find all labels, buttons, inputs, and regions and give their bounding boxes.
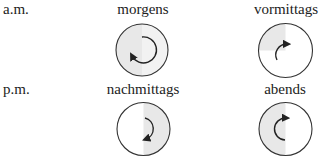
clock-nachmittags-icon	[116, 101, 171, 157]
label-abends: abends	[264, 82, 306, 97]
row-label-pm: p.m.	[3, 82, 30, 97]
row-label-am: a.m.	[3, 2, 29, 17]
label-vormittags: vormittags	[254, 2, 318, 17]
label-nachmittags: nachmittags	[107, 82, 179, 97]
clock-abends-icon	[257, 101, 314, 157]
clock-morgens-icon	[114, 22, 170, 78]
clock-vormittags-icon	[257, 22, 314, 79]
label-morgens: morgens	[117, 2, 168, 17]
